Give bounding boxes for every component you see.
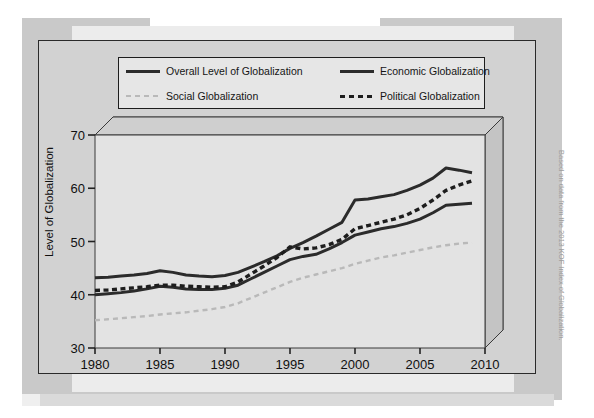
page-shadow-bottom — [38, 394, 554, 406]
y-tick-label: 30 — [71, 341, 85, 356]
y-tick-label: 50 — [71, 235, 85, 250]
figure-root: Overall Level of Globalization Economic … — [0, 0, 594, 418]
x-tick-label: 2005 — [406, 357, 435, 372]
y-tick-label: 70 — [71, 128, 85, 143]
plot-top-face — [95, 117, 503, 135]
x-tick-label: 1995 — [276, 357, 305, 372]
page-shadow-left — [22, 394, 40, 406]
x-tick-label: 1985 — [146, 357, 175, 372]
y-tick-label: 60 — [71, 181, 85, 196]
x-tick-label: 2000 — [341, 357, 370, 372]
x-tick-label: 2010 — [471, 357, 500, 372]
source-credit: Based on data from the 2013 KOF Index of… — [557, 150, 566, 390]
x-tick-label: 1990 — [211, 357, 240, 372]
chart-plot-area: 30405060701980198519901995200020052010 — [38, 40, 536, 374]
plot-right-face — [485, 117, 503, 348]
y-tick-label: 40 — [71, 288, 85, 303]
x-tick-label: 1980 — [81, 357, 110, 372]
